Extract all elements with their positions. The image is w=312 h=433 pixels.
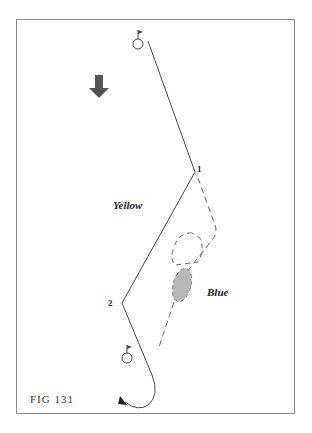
loop-arrowhead-icon [118,396,127,405]
flag-hole-icon [122,345,132,363]
solid-path [122,41,195,408]
figure-caption: FIG 131 [30,393,74,405]
direction-arrow-icon [89,75,109,98]
diagram-canvas [0,0,312,433]
dashed-path [158,178,216,350]
point-1-label: 1 [197,164,202,174]
flag-hole-icon [133,30,143,49]
dashed-loop [172,233,202,265]
yellow-label: Yellow [113,199,142,211]
shaded-hazard [169,266,195,304]
blue-label: Blue [207,286,228,298]
point-2-label: 2 [108,298,113,308]
